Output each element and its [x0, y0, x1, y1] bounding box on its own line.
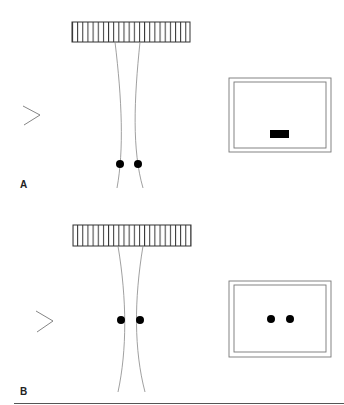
chevron-icon-a [23, 106, 40, 125]
screen-b [229, 281, 331, 357]
screen-dot-right [286, 315, 294, 323]
dot-left-b [117, 316, 125, 324]
panel-label-b: B [20, 386, 27, 397]
panel-b [36, 225, 331, 392]
grating-a [72, 22, 190, 42]
panel-a [23, 22, 331, 188]
chevron-icon-b [36, 311, 53, 332]
dot-left-a [116, 160, 124, 168]
screen-a [229, 78, 331, 152]
panel-label-a: A [20, 179, 27, 190]
dot-right-b [136, 316, 144, 324]
diagram-canvas [0, 0, 344, 405]
screen-dot-left [267, 315, 275, 323]
bar-image [270, 130, 289, 138]
grating-b [73, 225, 191, 246]
dot-right-a [134, 160, 142, 168]
